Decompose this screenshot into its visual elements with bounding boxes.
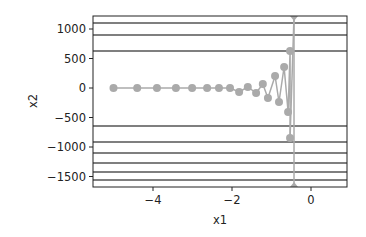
data-point	[203, 84, 211, 92]
data-point	[226, 84, 234, 92]
data-point	[133, 84, 141, 92]
x-tick-label: 0	[307, 193, 314, 207]
trajectory-series	[110, 16, 299, 187]
contour-lines	[93, 23, 347, 180]
y-tick-label: −1500	[47, 170, 86, 184]
data-point	[188, 84, 196, 92]
x-tick-label: −2	[224, 193, 241, 207]
data-point	[235, 88, 243, 96]
y-tick-label: −500	[54, 111, 86, 125]
trajectory-line	[114, 51, 291, 138]
data-point	[252, 89, 260, 97]
data-point	[280, 63, 288, 71]
y-tick-label: 0	[79, 81, 86, 95]
y-tick-label: 1000	[57, 22, 86, 36]
x-axis-label: x1	[213, 213, 227, 227]
data-point	[153, 84, 161, 92]
data-point	[264, 94, 272, 102]
y-tick-label: 500	[64, 52, 86, 66]
x-axis-ticks: −4−20	[145, 187, 315, 207]
data-point-marker	[290, 16, 298, 21]
data-point	[286, 47, 294, 55]
data-point-marker	[290, 182, 298, 187]
data-point	[259, 80, 267, 88]
data-point	[286, 134, 294, 142]
y-axis-label: x2	[26, 94, 40, 108]
data-point	[275, 98, 283, 106]
data-point	[271, 72, 279, 80]
data-point	[215, 84, 223, 92]
y-tick-label: −1000	[47, 140, 86, 154]
y-axis-ticks: 10005000−500−1000−1500	[47, 22, 93, 184]
data-point	[284, 108, 292, 116]
plot-area-frame	[93, 16, 347, 187]
data-point	[172, 84, 180, 92]
data-point	[244, 83, 252, 91]
chart: −4−20 10005000−500−1000−1500 x1 x2	[0, 0, 366, 237]
x-tick-label: −4	[145, 193, 162, 207]
data-point	[110, 84, 118, 92]
